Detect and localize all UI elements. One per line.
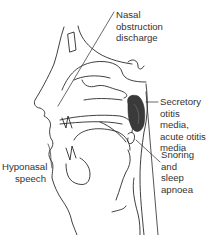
adenoid-mass (128, 95, 145, 131)
face-profile (34, 27, 77, 235)
label-hyponasal-speech: Hyponasal speech (2, 161, 46, 184)
leader-nasal (58, 12, 114, 106)
label-nasal-obstruction: Nasal obstruction discharge (116, 9, 163, 44)
leader-snoring (136, 140, 160, 162)
label-otitis-media: Secretory otitis media, acute otitis med… (160, 96, 208, 154)
jaw (66, 158, 90, 185)
label-snoring-apnoea: Snoring and sleep apnoea (161, 149, 208, 195)
tongue (74, 129, 130, 150)
spine-line (146, 92, 158, 235)
soft-palate (100, 122, 126, 142)
nose-ala (68, 32, 76, 52)
